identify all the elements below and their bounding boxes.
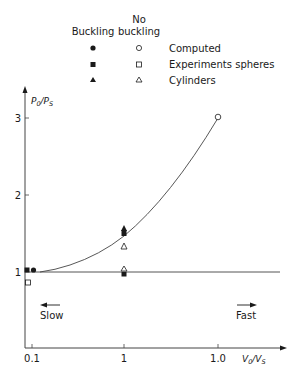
- legend-label-cylinders: Cylinders: [169, 75, 216, 86]
- legend-header-buckling: Buckling: [72, 26, 115, 37]
- fast-label: Fast: [236, 310, 256, 321]
- point-open-square: [26, 280, 31, 285]
- point-open-triangle: [121, 266, 127, 271]
- threshold-curve: [40, 118, 218, 272]
- x-tick-label-10: 1.0: [210, 353, 226, 364]
- y-axis-label: P0/PS: [31, 96, 53, 108]
- point-open-circle: [215, 114, 221, 120]
- point-filled-circle: [31, 267, 36, 272]
- fast-arrow-icon: [250, 303, 257, 308]
- legend-header-no-buckling: buckling: [118, 26, 160, 37]
- legend-open-triangle-icon: [136, 77, 142, 82]
- x-axis-label: V0/VS: [242, 354, 266, 366]
- point-filled-square: [25, 268, 30, 273]
- x-tick-label-01: 0.1: [24, 353, 40, 364]
- legend-open-circle-icon: [136, 45, 141, 50]
- legend-filled-square-icon: [91, 62, 96, 67]
- legend-open-square-icon: [137, 62, 142, 67]
- x-tick-label-1: 1: [121, 353, 127, 364]
- slow-arrow-icon: [40, 303, 47, 308]
- y-tick-label-2: 2: [15, 190, 21, 201]
- point-filled-square: [122, 272, 127, 277]
- y-tick-label-1: 1: [15, 267, 21, 278]
- x-axis-arrow-icon: [280, 346, 287, 351]
- point-open-triangle: [121, 243, 127, 249]
- y-axis-arrow-icon: [23, 86, 28, 93]
- legend-label-spheres: Experiments spheres: [169, 59, 274, 70]
- legend-filled-triangle-icon: [90, 77, 96, 82]
- buckling-chart: Buckling No buckling Computed Experiment…: [0, 0, 301, 380]
- slow-label: Slow: [40, 310, 63, 321]
- legend-header-no: No: [132, 14, 146, 25]
- legend-label-computed: Computed: [169, 43, 221, 54]
- legend-filled-circle-icon: [90, 45, 95, 50]
- y-tick-label-3: 3: [15, 113, 21, 124]
- point-filled-square: [122, 230, 127, 236]
